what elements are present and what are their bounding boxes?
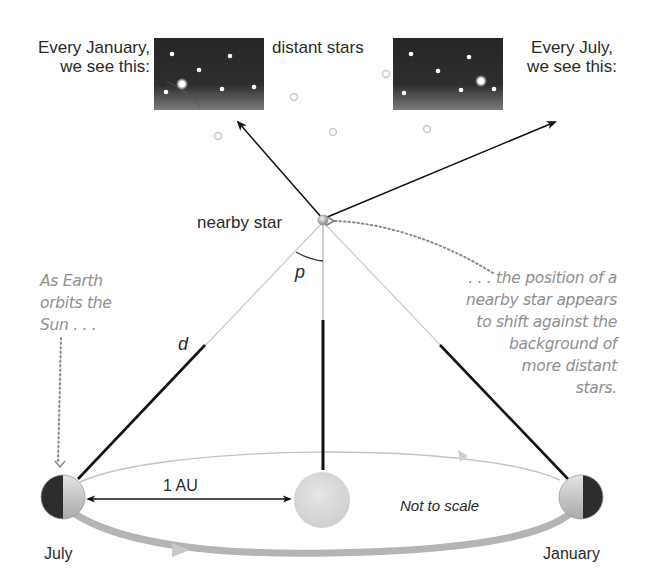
parallax-angle-label: p	[295, 263, 305, 282]
orbit-direction-arrow-back	[458, 450, 468, 462]
note-right-line-6: stars.	[430, 377, 617, 399]
note-left-line-1: As Earth	[40, 270, 112, 292]
note-right-line-3: to shift against the	[430, 311, 617, 333]
january-caption-line-2: we see this:	[14, 57, 150, 76]
sun-icon	[294, 472, 350, 528]
callout-nearby-star	[334, 221, 493, 273]
note-right-line-5: more distant	[430, 355, 617, 377]
note-left-line-3: Sun . . .	[40, 314, 112, 336]
parallax-diagram: Every January, we see this: distant star…	[0, 0, 645, 587]
sight-line-july	[325, 122, 555, 218]
january-caption: Every January, we see this:	[14, 38, 150, 76]
not-to-scale-label: Not to scale	[400, 496, 479, 515]
distance-label: d	[178, 335, 188, 354]
nearby-star-label: nearby star	[197, 213, 282, 232]
earth-january-icon	[559, 475, 605, 519]
callout-july-earth	[58, 338, 61, 463]
july-caption-line-2: we see this:	[510, 57, 634, 76]
july-caption-line-1: Every July,	[510, 38, 634, 57]
parallax-angle-arc	[296, 252, 323, 261]
july-caption: Every July, we see this:	[510, 38, 634, 76]
note-right-line-2: nearby star appears	[430, 289, 617, 311]
au-label: 1 AU	[163, 476, 198, 495]
january-sky-image	[154, 38, 264, 110]
sight-line-january	[238, 122, 322, 218]
july-label: July	[44, 544, 72, 563]
july-sky-image	[393, 38, 503, 110]
distant-stars-label: distant stars	[272, 38, 364, 57]
note-star-shift: . . . the position of a nearby star appe…	[430, 267, 617, 399]
note-right-line-4: background of	[430, 333, 617, 355]
callout-arrowhead	[55, 461, 65, 467]
january-caption-line-1: Every January,	[14, 38, 150, 57]
note-earth-orbits: As Earth orbits the Sun . . .	[40, 270, 112, 336]
note-right-line-1: . . . the position of a	[430, 267, 617, 289]
nearby-star-icon	[318, 215, 328, 225]
january-label: January	[543, 544, 600, 563]
earth-july-icon	[41, 475, 85, 519]
note-left-line-2: orbits the	[40, 292, 112, 314]
